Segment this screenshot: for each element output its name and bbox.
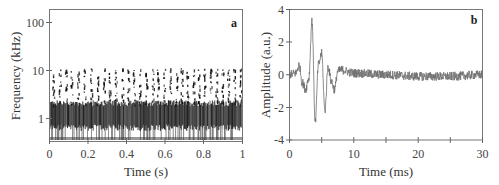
panel-label-b: b [471, 13, 478, 27]
xtick-label: 0.2 [81, 147, 96, 161]
panel-label-a: a [231, 16, 237, 30]
ytick-label: 0 [278, 68, 284, 82]
ytick-label: 4 [278, 3, 284, 17]
ytick-label: -2 [274, 101, 284, 115]
xtick-label: 0 [47, 147, 53, 161]
xtick-label: 30 [477, 147, 489, 161]
xtick-label: 10 [348, 147, 360, 161]
ytick-label: 1 [38, 112, 44, 126]
figure: 100 10 1 0 0.2 0.4 0.6 0.8 1 Time (s) Fr… [0, 0, 499, 185]
panel-b: 4 2 0 -2 -4 0 10 20 30 Time (ms) Amplitu… [258, 3, 489, 180]
xtick-label: 0 [287, 147, 293, 161]
y-axis-label-a: Frequency (kHz) [8, 32, 23, 120]
waveform-trace [290, 18, 483, 122]
xtick-label: 0.8 [196, 147, 211, 161]
ytick-label: -4 [274, 133, 284, 147]
x-axis-label-a: Time (s) [124, 164, 168, 179]
xtick-label: 20 [412, 147, 424, 161]
xtick-label: 1 [240, 147, 246, 161]
ytick-label: 2 [278, 35, 284, 49]
xtick-label: 0.6 [158, 147, 173, 161]
ytick-label: 100 [26, 16, 44, 30]
y-axis-label-b: Amplitude (a.u.) [258, 32, 273, 118]
panel-a: 100 10 1 0 0.2 0.4 0.6 0.8 1 Time (s) Fr… [8, 10, 246, 180]
x-axis-label-b: Time (ms) [359, 164, 413, 179]
ytick-label: 10 [32, 64, 44, 78]
xtick-label: 0.4 [119, 147, 134, 161]
spectrogram-data [50, 68, 243, 140]
